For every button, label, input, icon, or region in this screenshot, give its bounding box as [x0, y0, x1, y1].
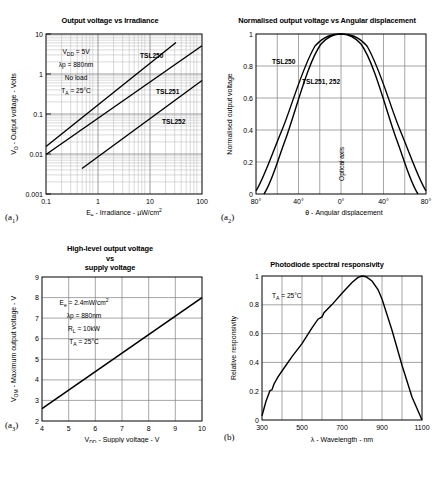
a1-label-tsl252: TSL252	[162, 118, 186, 125]
svg-text:TA = 25°C: TA = 25°C	[69, 338, 99, 347]
svg-text:0.2: 0.2	[243, 158, 253, 165]
panel-a1-title: Output voltage vs Irradiance	[4, 16, 216, 26]
svg-text:0.6: 0.6	[243, 94, 253, 101]
a2-ytick-labels: 0 0.2 0.4 0.6 0.8 1	[243, 31, 253, 198]
svg-text:λp = 880nm: λp = 880nm	[59, 61, 94, 69]
svg-text:TA = 25°C: TA = 25°C	[61, 87, 91, 96]
svg-text:Ee = 2.4mW/cm2: Ee = 2.4mW/cm2	[60, 297, 109, 307]
a2-ylabel: Normalised output voltage	[226, 73, 234, 154]
svg-text:0.4: 0.4	[249, 358, 259, 365]
svg-text:0.2: 0.2	[249, 387, 259, 394]
panel-a1-plot: TSL250 TSL251 TSL252 VDD = 5V λp = 880nm…	[4, 26, 216, 216]
b-ylabel: Relative responsivity	[230, 315, 238, 380]
svg-text:100: 100	[196, 198, 208, 205]
svg-text:1100: 1100	[414, 424, 429, 431]
chart-a2: TSL250 TSL251, 252 Optical axis 0 0.2 0.…	[220, 26, 434, 216]
svg-text:1: 1	[39, 70, 43, 77]
panel-a2-plot: TSL250 TSL251, 252 Optical axis 0 0.2 0.…	[220, 26, 434, 216]
b-xtick-labels: 300 500 700 900 1100	[256, 424, 429, 431]
figure-label-a3: (a3)	[5, 420, 18, 432]
svg-text:0.8: 0.8	[249, 301, 259, 308]
b-ytick-labels: 0 0.2 0.4 0.6 0.8 1	[249, 273, 259, 424]
svg-text:VDD = 5V: VDD = 5V	[62, 48, 90, 57]
a3-ytick-labels: 2 3 4 5 6 7 8 9	[35, 274, 39, 425]
a2-xtick-labels: 80° 40° 0° 40° 80°	[251, 198, 432, 205]
svg-text:7: 7	[35, 314, 39, 321]
svg-text:0: 0	[249, 190, 253, 197]
panel-a3-title-line1: High-level output voltage	[4, 244, 216, 254]
svg-text:9: 9	[35, 274, 39, 281]
panel-a1: Output voltage vs Irradiance	[4, 16, 216, 216]
a3-xtick-labels: 4 5 6 7 8 9 10	[40, 425, 206, 432]
svg-text:No load: No load	[65, 74, 88, 81]
svg-text:2: 2	[35, 417, 39, 424]
svg-text:0.8: 0.8	[243, 62, 253, 69]
a1-xtick-labels: 0.1 1 10 100	[41, 198, 208, 205]
svg-text:500: 500	[296, 424, 308, 431]
chart-a3: Ee = 2.4mW/cm2 λp = 880nm RL = 10kW TA =…	[4, 273, 216, 443]
chart-a1: TSL250 TSL251 TSL252 VDD = 5V λp = 880nm…	[4, 26, 216, 216]
svg-text:10: 10	[35, 31, 43, 38]
svg-text:40°: 40°	[378, 198, 389, 205]
b-annotation: TA = 25°C	[272, 292, 302, 301]
panel-a3-title-line2: vs	[4, 254, 216, 264]
chart-b: TA = 25°C 0 0.2 0.4 0.6 0.8 1 300 500 70…	[220, 270, 434, 450]
a3-annotations: Ee = 2.4mW/cm2 λp = 880nm RL = 10kW TA =…	[60, 297, 109, 346]
a3-xlabel: VDD - Supply voltage - V	[85, 436, 160, 443]
panel-a2-title: Normalised output voltage vs Angular dis…	[220, 16, 434, 26]
panel-b: Photodiode spectral responsivity	[220, 260, 434, 450]
a1-label-tsl251: TSL251	[156, 88, 180, 95]
svg-text:6: 6	[93, 425, 97, 432]
svg-text:0.6: 0.6	[249, 330, 259, 337]
figure-sheet: Output voltage vs Irradiance	[0, 0, 437, 485]
panel-a3-title-line3: supply voltage	[4, 263, 216, 273]
svg-text:1: 1	[96, 198, 100, 205]
svg-text:0.1: 0.1	[33, 110, 43, 117]
svg-text:80°: 80°	[251, 198, 262, 205]
a1-ylabel: VO - Output voltage - Volts	[10, 72, 19, 154]
a2-xlabel: θ - Angular displacement	[305, 209, 382, 216]
svg-text:0.1: 0.1	[41, 198, 51, 205]
a1-ytick-labels: 0.001 0.01 0.1 1 10	[25, 31, 43, 198]
svg-text:λp = 880nm: λp = 880nm	[67, 312, 102, 320]
svg-text:10: 10	[198, 425, 206, 432]
svg-text:300: 300	[256, 424, 268, 431]
svg-text:10: 10	[146, 198, 154, 205]
panel-b-plot: TA = 25°C 0 0.2 0.4 0.6 0.8 1 300 500 70…	[220, 270, 434, 450]
svg-text:5: 5	[67, 425, 71, 432]
a1-label-tsl250: TSL250	[140, 52, 164, 59]
a1-xlabel: Ee - Irradiance - µW/cm2	[86, 207, 162, 216]
svg-text:0.4: 0.4	[243, 126, 253, 133]
svg-text:0.01: 0.01	[29, 150, 43, 157]
figure-label-a2: (a2)	[221, 212, 234, 224]
a1-grid	[46, 34, 202, 194]
svg-text:0°: 0°	[338, 198, 345, 205]
svg-text:80°: 80°	[421, 198, 432, 205]
svg-text:RL = 10kW: RL = 10kW	[68, 325, 101, 334]
svg-text:0.001: 0.001	[25, 190, 43, 197]
figure-label-a1: (a1)	[5, 212, 18, 224]
svg-text:1: 1	[249, 31, 253, 38]
svg-text:0: 0	[255, 416, 259, 423]
a2-label-tsl251-252: TSL251, 252	[302, 78, 340, 86]
svg-text:40°: 40°	[293, 198, 304, 205]
svg-text:700: 700	[336, 424, 348, 431]
svg-text:4: 4	[40, 425, 44, 432]
svg-text:900: 900	[376, 424, 388, 431]
svg-text:8: 8	[35, 294, 39, 301]
svg-text:4: 4	[35, 376, 39, 383]
panel-a3-plot: Ee = 2.4mW/cm2 λp = 880nm RL = 10kW TA =…	[4, 273, 216, 443]
a2-label-tsl250: TSL250	[272, 58, 296, 65]
figure-label-b: (b)	[224, 432, 235, 442]
svg-text:9: 9	[173, 425, 177, 432]
svg-text:6: 6	[35, 335, 39, 342]
a3-ylabel: VOM - Maximum output voltage - V	[10, 295, 19, 401]
panel-a2: Normalised output voltage vs Angular dis…	[220, 16, 434, 216]
panel-a3: High-level output voltage vs supply volt…	[4, 244, 216, 443]
b-xlabel: λ - Wavelength - nm	[311, 436, 374, 444]
svg-text:3: 3	[35, 397, 39, 404]
svg-text:7: 7	[120, 425, 124, 432]
a2-optical-axis-note: Optical axis	[338, 146, 346, 181]
svg-text:1: 1	[255, 273, 259, 280]
svg-text:5: 5	[35, 355, 39, 362]
